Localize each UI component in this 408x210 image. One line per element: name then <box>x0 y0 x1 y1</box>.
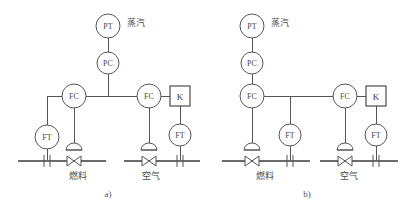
a-steam-label: 蒸汽 <box>127 17 145 28</box>
b-air-label: 空气 <box>340 170 358 181</box>
b-fuel-control-valve <box>244 143 260 166</box>
b-pressure-transmitter[interactable]: PT <box>240 14 264 38</box>
a-fuel-flow-controller[interactable]: FC <box>62 84 86 108</box>
a-air-flow-transmitter[interactable]: FT <box>169 124 191 146</box>
a-air-flow-controller[interactable]: FC <box>137 84 161 108</box>
a-pressure-transmitter[interactable]: PT <box>96 14 120 38</box>
b-fuel-flow-transmitter[interactable]: FT <box>279 124 301 146</box>
b-pt-tag: PT <box>247 22 256 31</box>
a-k-tag: K <box>177 92 184 102</box>
a-air-label: 空气 <box>142 170 160 181</box>
a-fuel-control-valve <box>66 143 82 166</box>
panel-a: PT PC FC FT FC K <box>18 14 200 199</box>
b-fuel-label: 燃料 <box>256 170 274 181</box>
b-pressure-controller[interactable]: PC <box>241 52 263 74</box>
a-pt-tag: PT <box>103 22 112 31</box>
b-fc-fuel-tag: FC <box>247 92 257 101</box>
a-pc-tag: PC <box>103 59 113 68</box>
b-ratio-multiplier[interactable]: K <box>366 86 386 106</box>
a-ft-air-tag: FT <box>175 131 184 140</box>
b-fuel-flow-controller[interactable]: FC <box>240 84 264 108</box>
a-fc-air-tag: FC <box>144 92 154 101</box>
b-air-control-valve <box>337 143 353 166</box>
a-pressure-controller[interactable]: PC <box>97 52 119 74</box>
b-steam-label: 蒸汽 <box>271 17 289 28</box>
b-air-flow-controller[interactable]: FC <box>333 84 357 108</box>
a-air-control-valve <box>141 143 157 166</box>
figure-root: PT PC FC FT FC K <box>0 0 408 210</box>
a-ft-fuel-tag: FT <box>42 133 51 142</box>
b-k-tag: K <box>373 92 380 102</box>
a-fuel-flow-transmitter[interactable]: FT <box>35 125 59 149</box>
a-ratio-multiplier[interactable]: K <box>170 86 190 106</box>
b-ft-air-tag: FT <box>371 131 380 140</box>
a-fuel-label: 燃料 <box>69 170 87 181</box>
a-caption: a) <box>105 189 112 199</box>
b-pc-tag: PC <box>247 59 257 68</box>
pid-diagram-canvas: PT PC FC FT FC K <box>0 0 408 210</box>
b-fc-air-tag: FC <box>340 92 350 101</box>
a-fc-fuel-tag: FC <box>69 92 79 101</box>
b-caption: b) <box>303 189 311 199</box>
panel-b: PT PC FC FT FC K <box>222 14 398 199</box>
b-air-flow-transmitter[interactable]: FT <box>365 124 387 146</box>
b-ft-fuel-tag: FT <box>285 131 294 140</box>
